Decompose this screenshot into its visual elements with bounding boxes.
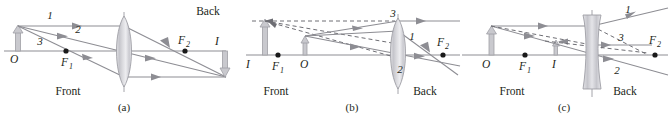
focal-label-f2-b-letter: F: [436, 36, 445, 48]
focal-label-f2-a-sub: 2: [186, 40, 190, 49]
focal-label-f1-a-letter: F: [60, 56, 69, 68]
back-label-b: Back: [413, 85, 437, 97]
panel-b: I F 1 O F 2 3 1 2 Front Back (b): [245, 7, 460, 114]
front-label-c: Front: [500, 85, 526, 97]
object-label-b: O: [300, 58, 309, 70]
ray-3-c: [491, 26, 652, 48]
front-label-a: Front: [56, 85, 82, 97]
image-arrow-b: [260, 19, 270, 55]
panel-a: 1 2 3 O F 1 F 2 I Back Front (a): [4, 5, 230, 114]
panel-caption-b: (b): [346, 101, 359, 114]
ray-label-3-b: 3: [389, 7, 396, 19]
ray-2-c: [491, 26, 668, 75]
focal-point-f1-c: [522, 52, 527, 57]
focal-point-f2-c: [652, 52, 657, 57]
diverging-lens-c: [583, 10, 601, 97]
object-label-c: O: [482, 58, 491, 70]
focal-label-f1-b: F 1: [271, 60, 284, 75]
image-arrow-a: [220, 51, 230, 77]
focal-label-f1-b-sub: 1: [280, 66, 284, 75]
focal-label-f1-c-sub: 1: [527, 66, 531, 75]
ray-label-2-c: 2: [614, 64, 620, 76]
object-arrow-a: [13, 25, 23, 51]
focal-label-f1-c: F 1: [518, 60, 531, 75]
back-label-a: Back: [196, 5, 220, 17]
back-label-c: Back: [613, 85, 637, 97]
focal-point-f1-b: [275, 52, 280, 57]
focal-point-f2-b: [440, 52, 445, 57]
optics-ray-diagram-figure: 1 2 3 O F 1 F 2 I Back Front (a): [0, 0, 670, 116]
ray-label-2-a: 2: [75, 23, 81, 35]
object-label-a: O: [10, 53, 19, 65]
focal-label-f1-a: F 1: [60, 56, 73, 71]
converging-lens-b: [391, 14, 406, 94]
ray-label-1-a: 1: [47, 9, 53, 21]
focal-label-f2-c-sub: 2: [657, 40, 661, 49]
focal-label-f1-a-sub: 1: [69, 62, 73, 71]
focal-point-f1-a: [63, 48, 68, 53]
ray-1-c: [491, 8, 668, 29]
image-label-a: I: [214, 35, 220, 47]
panel-caption-a: (a): [118, 101, 131, 114]
front-label-b: Front: [264, 85, 290, 97]
focal-label-f2-a: F 2: [177, 34, 190, 49]
ray-label-3-a: 3: [36, 35, 43, 47]
ray-label-1-b: 1: [409, 30, 415, 42]
converging-lens-a: [117, 12, 132, 92]
focal-label-f1-b-letter: F: [271, 60, 280, 72]
ray-label-2-b: 2: [397, 63, 403, 75]
object-arrow-b: [301, 36, 309, 55]
focal-label-f2-a-letter: F: [177, 34, 186, 46]
ray-diagram-canvas: 1 2 3 O F 1 F 2 I Back Front (a): [0, 0, 670, 116]
ray-3-b: [305, 18, 460, 36]
focal-label-f2-c: F 2: [648, 34, 661, 49]
ray-label-1-c: 1: [625, 3, 631, 15]
focal-label-f2-b-sub: 2: [445, 42, 449, 51]
focal-label-f1-c-letter: F: [518, 60, 527, 72]
focal-label-f2-c-letter: F: [648, 34, 657, 46]
panel-caption-c: (c): [558, 101, 571, 114]
focal-label-f2-b: F 2: [436, 36, 449, 51]
image-label-b: I: [245, 58, 251, 70]
object-arrow-c: [487, 26, 497, 55]
image-label-c: I: [551, 58, 557, 70]
focal-point-f2-a: [182, 48, 187, 53]
panel-c: O F 1 I F 2 1 3 2 Front Back (c): [462, 3, 668, 114]
ray-label-3-c: 3: [617, 31, 624, 43]
